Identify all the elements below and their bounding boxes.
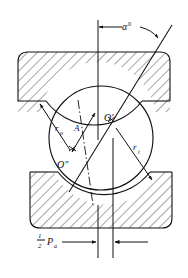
diagram-root: α° O′ O″ r o r i A 1 2 P a	[0, 0, 188, 278]
bearing-geometry-diagram: α° O′ O″ r o r i A 1 2 P a	[0, 0, 188, 278]
contact-angle-label: α°	[122, 21, 131, 32]
distance-A-label: A	[73, 123, 80, 133]
outer-center-label: O′	[104, 112, 114, 123]
inner-radius-subscript: i	[138, 149, 140, 155]
load-denominator: 2	[38, 242, 42, 250]
load-numerator: 1	[38, 232, 42, 240]
outer-radius-subscript: o	[60, 130, 63, 136]
upper-race-block	[10, 45, 180, 135]
outer-radius-symbol: r	[55, 123, 59, 133]
inner-radius-label: r i	[133, 142, 140, 155]
contact-angle-leader	[140, 27, 158, 38]
inner-radius-symbol: r	[133, 142, 137, 152]
load-label: 1 2 P a	[38, 232, 57, 250]
inner-center-label: O″	[57, 159, 69, 170]
load-symbol: P	[46, 236, 53, 247]
load-subscript: a	[54, 243, 57, 249]
outer-radius-label: r o	[55, 123, 63, 136]
lower-race-block	[20, 150, 185, 235]
